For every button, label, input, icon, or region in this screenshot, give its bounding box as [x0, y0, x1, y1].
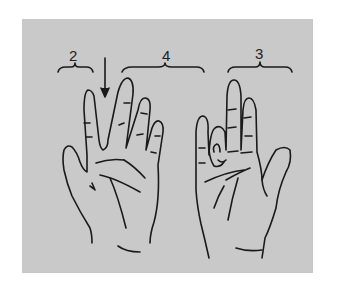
left-hand: [63, 78, 163, 252]
hands-illustration: [0, 0, 346, 298]
bracket-4: [122, 63, 204, 72]
right-hand: [196, 80, 291, 258]
bracket-2: [58, 63, 93, 72]
bracket-3: [228, 62, 292, 72]
arrow-down-icon: [101, 58, 109, 97]
